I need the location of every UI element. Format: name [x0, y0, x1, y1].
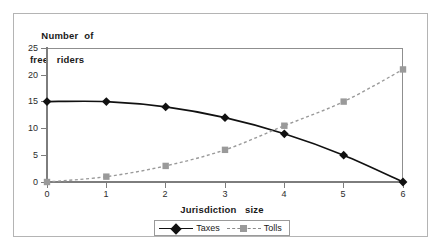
plot-area	[47, 48, 403, 182]
legend-item-tolls: Tolls	[223, 223, 285, 233]
legend-marker-diamond-icon	[159, 228, 193, 229]
y-tick-label: 20	[8, 70, 38, 80]
x-tick-label: 3	[213, 189, 237, 199]
y-axis-title-line1: Number of	[41, 30, 93, 41]
y-tick-label: 5	[8, 150, 38, 160]
y-tick-label: 25	[8, 43, 38, 53]
x-tick-label: 0	[35, 189, 59, 199]
y-axis-line	[46, 47, 48, 183]
y-tick-label: 0	[8, 177, 38, 187]
y-tick-label: 15	[8, 96, 38, 106]
y-tick-label: 10	[8, 123, 38, 133]
legend-label-tolls: Tolls	[261, 223, 285, 233]
legend-item-taxes: Taxes	[159, 223, 223, 233]
x-tick-label: 5	[331, 189, 355, 199]
legend-label-taxes: Taxes	[193, 223, 223, 233]
x-tick-label: 4	[272, 189, 296, 199]
x-tick-label: 6	[391, 189, 415, 199]
x-tick-label: 2	[153, 189, 177, 199]
chart-legend: Taxes Tolls	[154, 220, 290, 236]
legend-marker-square-icon	[227, 228, 261, 229]
x-axis-title: Jurisdiction size	[0, 204, 444, 215]
chart-root: Number of free riders 25 20 15 10 5 0 0 …	[0, 0, 444, 252]
x-tick-label: 1	[94, 189, 118, 199]
